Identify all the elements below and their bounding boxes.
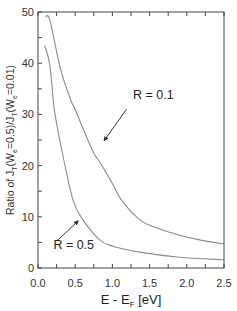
chart-canvas: 0.00.51.01.52.02.501020304050 R = 0.1R =… [0,0,237,311]
x-axis-label: E - EF [eV] [101,292,162,309]
y-tick-label: 40 [22,57,34,69]
y-tick-label: 0 [28,262,34,274]
annotation-label: R = 0.1 [133,88,174,102]
arrow-icon [104,109,126,140]
y-tick-label: 30 [22,108,34,120]
y-tick-label: 50 [22,6,34,18]
x-tick-label: 0.5 [68,277,83,289]
plot-frame [38,12,224,268]
axis-ticks [38,12,224,268]
x-tick-label: 0.0 [30,277,45,289]
y-tick-label: 20 [22,160,34,172]
x-tick-label: 1.5 [142,277,157,289]
annotation-label: R = 0.5 [53,238,94,252]
curve-r-0-1 [45,16,224,244]
data-curves [45,16,224,260]
x-tick-label: 2.5 [216,277,231,289]
x-tick-label: 2.0 [179,277,194,289]
y-tick-label: 10 [22,211,34,223]
x-tick-label: 1.0 [105,277,120,289]
y-axis-label: Ratio of JT(We=0.5)/JT(We=0.01) [4,65,18,215]
